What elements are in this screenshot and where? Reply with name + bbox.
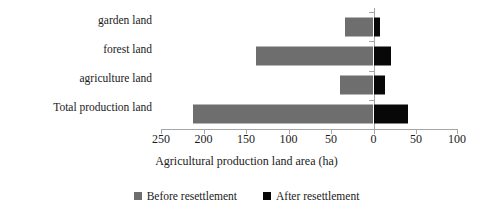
x-tick-label-100: 100 [280,132,298,146]
category-label-garden-land: garden land [0,14,152,27]
bar-after-total-production-land [374,105,408,124]
legend-label-after-resettlement: After resettlement [276,189,359,203]
bar-before-total-production-land [193,105,373,124]
agricultural-land-bar-chart: garden land forest land agriculture land… [0,0,493,223]
x-tick-label-0: 0 [371,132,377,146]
bar-after-forest-land [374,46,392,65]
bar-after-garden-land [374,17,381,36]
plot-area [161,12,458,129]
bar-row-agriculture-land [161,71,458,100]
bar-before-agriculture-land [340,76,373,95]
legend-label-before-resettlement: Before resettlement [147,189,237,203]
x-axis-line [161,129,458,130]
legend-item-before-resettlement: Before resettlement [134,189,237,203]
bar-after-agriculture-land [374,76,385,95]
category-label-total-production-land: Total production land [0,101,152,114]
bar-row-forest-land [161,41,458,70]
x-axis-tick-labels: 250 200 150 100 50 0 50 100 [161,132,458,148]
category-label-agriculture-land: agriculture land [0,72,152,85]
bar-row-total-production-land [161,100,458,129]
x-axis-title: Agricultural production land area (ha) [0,154,493,169]
x-tick-label-50-left: 50 [325,132,337,146]
bar-before-garden-land [345,17,373,36]
bar-before-forest-land [256,46,373,65]
x-tick-label-150: 150 [237,132,255,146]
x-tick-label-200: 200 [195,132,213,146]
legend-item-after-resettlement: After resettlement [263,189,359,203]
x-tick-label-50-right: 50 [410,132,422,146]
chart-legend: Before resettlement After resettlement [0,189,493,203]
legend-swatch-after-icon [263,192,271,200]
x-tick-label-100-right: 100 [448,132,466,146]
legend-swatch-before-icon [134,192,142,200]
category-axis-labels: garden land forest land agriculture land… [0,12,158,129]
x-tick-label-250: 250 [152,132,170,146]
category-label-forest-land: forest land [0,43,152,56]
bar-row-garden-land [161,12,458,41]
